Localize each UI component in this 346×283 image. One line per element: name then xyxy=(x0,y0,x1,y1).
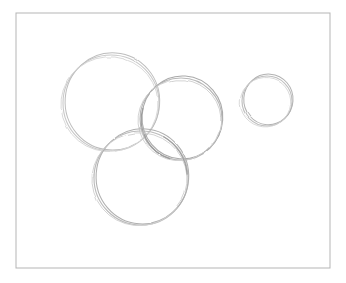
paper-background xyxy=(0,0,346,283)
sketch-canvas: Pencil sketch of four overlapping circle… xyxy=(0,0,346,283)
pencil-sketch-drawing xyxy=(0,0,346,283)
